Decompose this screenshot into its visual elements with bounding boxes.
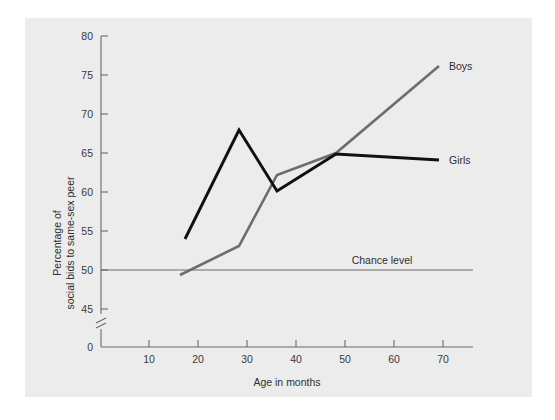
x-tick-label-40: 40: [290, 353, 302, 365]
y-tick-label-60: 60: [81, 186, 93, 198]
y-axis-title-line2: social bids to same-sex peer: [64, 176, 76, 310]
y-axis-zero-label: 0: [87, 341, 93, 353]
x-tick-label-60: 60: [388, 353, 400, 365]
chance-level-annotation: Chance level: [101, 254, 473, 270]
x-tick-label-30: 30: [241, 353, 253, 365]
series-boys: Boys: [180, 60, 472, 275]
series-girls: Girls: [185, 130, 471, 239]
x-tick-label-50: 50: [339, 353, 351, 365]
series-label-girls: Girls: [449, 154, 471, 166]
x-tick-label-20: 20: [192, 353, 204, 365]
y-axis-title-line1: Percentage of: [51, 210, 63, 275]
series-girls-line: [185, 130, 439, 239]
x-tick-label-10: 10: [143, 353, 155, 365]
y-tick-label-75: 75: [81, 69, 93, 81]
y-axis: 80 75 70 65 60 55 50 45 0: [81, 30, 108, 353]
x-axis-title: Age in months: [253, 376, 320, 388]
figure-panel: 80 75 70 65 60 55 50 45 0 Percentage of …: [25, 18, 532, 397]
line-chart: 80 75 70 65 60 55 50 45 0 Percentage of …: [25, 18, 532, 397]
y-tick-label-65: 65: [81, 147, 93, 159]
chance-level-label: Chance level: [352, 254, 413, 266]
series-label-boys: Boys: [449, 60, 472, 72]
x-tick-label-70: 70: [437, 353, 449, 365]
y-axis-break-mark-upper: [96, 318, 106, 323]
y-tick-label-55: 55: [81, 225, 93, 237]
x-axis: 10 20 30 40 50 60 70 Age in months: [101, 340, 473, 388]
y-tick-label-80: 80: [81, 30, 93, 42]
y-axis-title: Percentage of social bids to same-sex pe…: [51, 176, 76, 310]
y-tick-label-45: 45: [81, 303, 93, 315]
y-tick-label-70: 70: [81, 108, 93, 120]
y-axis-break-mark-lower: [96, 323, 106, 328]
y-tick-label-50: 50: [81, 264, 93, 276]
